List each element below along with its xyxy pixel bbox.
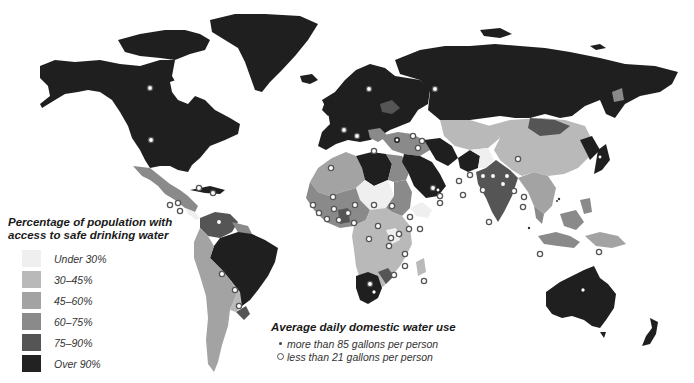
north-america (40, 14, 318, 172)
legend-item-high-use: more than 85 gallons per person (271, 337, 501, 350)
legend-item-75-90: 75–90% (8, 332, 178, 353)
legend-access: Percentage of population with access to … (8, 216, 178, 374)
legend-access-title: Percentage of population with access to … (8, 216, 178, 242)
legend-title-line2: access to safe drinking water (8, 229, 178, 242)
legend-water-use: Average daily domestic water use more th… (271, 321, 501, 363)
legend-item-30-45: 30–45% (8, 269, 178, 290)
russia (395, 28, 678, 122)
oceania (546, 266, 658, 346)
swatch-45-60 (22, 292, 41, 309)
legend-label: Under 30% (54, 253, 107, 265)
swatch-75-90 (22, 334, 41, 351)
open-circle-icon (275, 353, 285, 360)
legend-label: Over 90% (54, 358, 101, 370)
legend-item-over-90: Over 90% (8, 353, 178, 374)
legend-label: 45–60% (54, 295, 93, 307)
legend-label: less than 21 gallons per person (287, 351, 433, 363)
legend-item-45-60: 45–60% (8, 290, 178, 311)
swatch-60-75 (22, 313, 41, 330)
legend-water-use-title: Average daily domestic water use (271, 321, 501, 334)
legend-label: 30–45% (54, 274, 93, 286)
swatch-30-45 (22, 271, 41, 288)
legend-title-line1: Percentage of population with (8, 216, 178, 229)
swatch-under-30 (22, 250, 41, 267)
swatch-over-90 (22, 355, 41, 372)
legend-item-60-75: 60–75% (8, 311, 178, 332)
legend-label: more than 85 gallons per person (287, 338, 438, 350)
legend-item-under-30: Under 30% (8, 248, 178, 269)
legend-label: 60–75% (54, 316, 93, 328)
legend-label: 75–90% (54, 337, 93, 349)
small-dot-icon (275, 342, 285, 345)
legend-item-low-use: less than 21 gallons per person (271, 350, 501, 363)
